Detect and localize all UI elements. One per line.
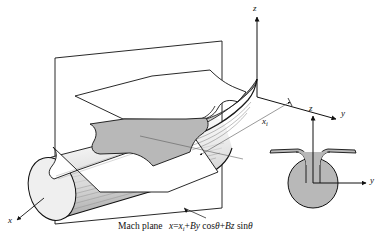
xi-subscript: i	[266, 120, 268, 127]
figure-root: z y x xi z y Mach plane x=xi+By cosθ+Bz …	[0, 0, 386, 246]
xi-dimension-label: xi	[262, 117, 268, 127]
figure-caption: Mach plane x=xi+By cosθ+Bz sinθ	[118, 222, 253, 232]
caption-theta2: θ	[248, 221, 253, 231]
section-y-axis-label: y	[370, 176, 374, 185]
main-y-axis-label: y	[341, 109, 345, 118]
main-y-axis	[257, 97, 336, 119]
caption-term2: By	[190, 221, 200, 231]
figure-drawing	[0, 0, 386, 246]
main-z-axis-label: z	[253, 4, 257, 13]
section-z-axis-label: z	[309, 104, 313, 113]
caption-prefix: Mach plane	[118, 221, 163, 231]
caption-term3: Bz	[225, 221, 235, 231]
main-x-axis-label: x	[8, 216, 12, 225]
caption-cos: cos	[202, 221, 215, 231]
cross-section-view	[270, 116, 366, 208]
main-axes	[257, 17, 336, 119]
caption-sin: sin	[237, 221, 248, 231]
